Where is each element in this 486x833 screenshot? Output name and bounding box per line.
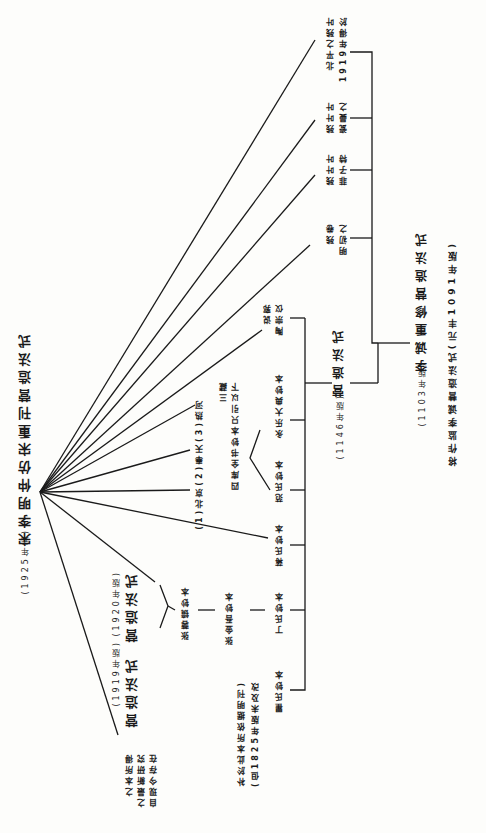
node-1146-title: 营造法式 xyxy=(333,325,346,397)
edition-1920-title: 营造法式 xyxy=(125,570,139,642)
yongle-copy: 永乐大典钞本 xyxy=(276,372,284,438)
self-research-a: 自现今存在 xyxy=(150,752,158,807)
zhang-jinwu-copy: 张金吾钞本 xyxy=(226,590,234,645)
siku-a: 四库全书钞本只引以下 xyxy=(232,380,240,490)
leaf-yi-a: 明初之 xyxy=(340,222,348,255)
self-research-b: 之最新研究 xyxy=(138,752,146,807)
tao-b: 说郛 xyxy=(264,302,272,324)
zhang-rongjing-copy: 张蓉镜钞本 xyxy=(182,585,190,640)
qu-copy: 瞿氏钞本 xyxy=(276,668,284,712)
leaf-lou-b: 残叶叶 xyxy=(327,100,335,133)
node-1103-year: (1103年版) xyxy=(419,360,427,427)
leaf-fei-a: 菲子特 xyxy=(340,152,348,185)
three-locations: (1)北京(2)奉天(3)热河 xyxy=(196,398,204,530)
leaf-fei-b: 残叶叶 xyxy=(327,152,335,185)
leaf-1919-beiping-a: 1919年得於 xyxy=(340,15,348,82)
final-edition-year: (1925年元) xyxy=(22,528,30,595)
fan-copy: 范氏钞本 xyxy=(276,458,284,502)
root-node-label: 将作监李诚营造法式(元丰1091年版) xyxy=(448,240,457,466)
leaf-yi-b: 残卷 xyxy=(327,222,335,244)
node-1146-year: (1146年版) xyxy=(337,393,345,460)
leaf-lou-a: 瓷曼之 xyxy=(340,100,348,133)
self-research-c: 之本所得 xyxy=(126,752,134,796)
edition-1920-year: (1920年版) xyxy=(113,570,121,637)
leaf-1919-beiping-b: 北平之残叶 xyxy=(327,15,335,70)
qu-note-a: (但1825年版未及改 xyxy=(252,680,260,787)
final-edition-title: 宋李明仲仿宋重刊营造法式 xyxy=(18,330,32,546)
ding-copy: 丁氏钞本 xyxy=(276,590,284,634)
siku-b: 三藏 xyxy=(220,380,228,402)
edition-1919-year: (1919年版) xyxy=(113,640,121,707)
node-1103-title: 李诚重修营造法式 xyxy=(416,228,429,372)
tao-a: 陶宗仪 xyxy=(276,302,284,335)
edition-1919-title: 营造法式 xyxy=(125,655,139,727)
edition-lineage-diagram: 将作监李诚营造法式(元丰1091年版) 李诚重修营造法式 (1103年版) 营造… xyxy=(0,0,486,833)
qu-note-b: 补於此本所依据明刊) xyxy=(238,680,246,786)
jiang-copy: 蒋氏钞本 xyxy=(276,522,284,566)
